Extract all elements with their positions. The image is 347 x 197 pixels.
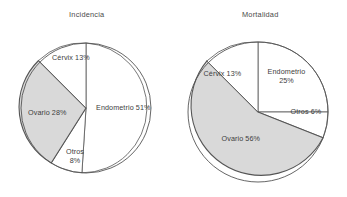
label-cervix: Cérvix 13% [52,54,90,63]
chart-panel-mortalidad: Mortalidad Endometrio 25% Cérvix 13% Otr… [174,0,347,197]
pie-chart-figure: Incidencia Endometrio 51% Cérvix 13% Ova… [0,0,347,197]
label-otros: Otros 8% [62,148,88,165]
label-otros: Otros 6% [291,108,322,117]
label-endometrio: Endometrio 25% [262,68,312,85]
label-otros-line2: 8% [70,156,81,165]
label-ovario: Ovario 28% [28,109,67,118]
label-endometrio-line2: 25% [279,76,294,85]
pie-mortalidad [174,0,347,197]
pie-incidencia [0,0,174,197]
label-ovario: Ovario 56% [222,135,261,144]
chart-panel-incidencia: Incidencia Endometrio 51% Cérvix 13% Ova… [0,0,174,197]
label-cervix: Cérvix 13% [204,70,242,79]
label-endometrio: Endometrio 51% [96,104,151,113]
